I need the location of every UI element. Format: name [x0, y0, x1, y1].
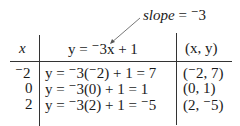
header-divider [10, 61, 232, 62]
slope-equals: = [175, 7, 191, 23]
slope-value: ⁻3 [191, 7, 206, 23]
row-3-x: 2 [25, 96, 33, 113]
header-x: x [19, 40, 26, 57]
row-3-equation: y = ⁻3(2) + 1 = ⁻5 [45, 96, 156, 114]
column-divider-2 [176, 33, 177, 125]
slope-annotation: slope = ⁻3 [143, 6, 206, 24]
row-2-x: 0 [25, 80, 33, 97]
header-pair: (x, y) [185, 40, 218, 57]
row-3-pair: (2, ⁻5) [183, 96, 223, 114]
column-divider-1 [39, 35, 40, 126]
row-2-pair: (0, 1) [183, 80, 216, 97]
slope-label: slope [143, 7, 175, 23]
header-equation: y = ⁻3x + 1 [68, 40, 138, 58]
